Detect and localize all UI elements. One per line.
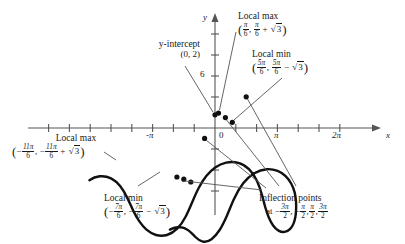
lnl-x-num: 7π <box>114 203 123 210</box>
lml-x-sign: − <box>16 146 21 156</box>
lml-y-num: 11π <box>45 143 58 150</box>
leader-local-min-right <box>234 78 282 120</box>
infl-3-den: 2 <box>318 211 327 219</box>
lnr-sign: − <box>284 62 289 72</box>
point-local-max-left <box>174 174 179 179</box>
infl-3-num: 3π <box>318 203 327 210</box>
lnl-x-den: 6 <box>114 211 123 219</box>
lnr-y-den: 6 <box>272 67 281 75</box>
point-local-min-right <box>230 120 235 125</box>
leader-inflection-c <box>227 120 280 186</box>
sqrt-icon: √3 <box>291 63 303 72</box>
graph-svg <box>0 0 405 244</box>
local-min-left-coords: (−7π6, −7π6 − √3) <box>104 204 170 220</box>
lmr-x-den: 6 <box>243 29 249 37</box>
infl-0-sign: − <box>275 206 280 216</box>
local-max-right-annotation: Local max (π6, π6 + √3) <box>238 12 287 38</box>
infl-2-num: π <box>309 203 315 210</box>
infl-1-num: π <box>300 203 306 210</box>
inflection-values: at −3π2, −π2,π2,3π2 <box>259 204 328 220</box>
lnl-y-sign-lead: − <box>128 206 133 216</box>
local-max-right-coords: (π6, π6 + √3) <box>238 22 287 38</box>
x-tick-label-pi: π <box>274 131 279 140</box>
y-intercept-point: (0, 2) <box>134 50 200 59</box>
lnl-x-sign: − <box>108 206 113 216</box>
lml-x-num: 11π <box>22 143 35 150</box>
sqrt-icon: √3 <box>68 147 80 156</box>
x-axis <box>28 124 381 132</box>
leader-inflection-a <box>185 181 263 190</box>
lnr-x-den: 6 <box>257 67 266 75</box>
inflection-annotation: Inflection points at −3π2, −π2,π2,3π2 <box>259 194 328 220</box>
y-intercept-annotation: y-intercept (0, 2) <box>134 40 200 59</box>
lml-x-den: 6 <box>22 151 35 159</box>
point-inflection-pi-2 <box>223 115 228 120</box>
infl-1-den: 2 <box>300 211 306 219</box>
sqrt-icon: √3 <box>153 207 165 216</box>
sqrt-icon: √3 <box>270 25 282 34</box>
lmr-x-num: π <box>243 21 249 28</box>
local-max-left-annotation: Local max (−11π6, −11π6 + √3) <box>12 134 140 160</box>
leader-y-intercept <box>185 66 213 112</box>
leader-local-min-left <box>138 172 160 186</box>
lml-y-sign-lead: − <box>39 146 44 156</box>
inflection-title: Inflection points <box>259 194 328 204</box>
local-min-left-annotation: Local min (−7π6, −7π6 − √3) <box>104 194 170 220</box>
lmr-y-num: π <box>254 21 260 28</box>
x-axis-label: x <box>386 131 390 140</box>
inflection-at-word: at <box>266 206 273 216</box>
y-tick-label-6: 6 <box>200 70 205 79</box>
infl-0-num: 3π <box>280 203 289 210</box>
lnl-y-num: 7π <box>134 203 143 210</box>
local-min-right-coords: (5π6, 5π6 − √3) <box>252 60 308 76</box>
lnl-sign: − <box>146 206 151 216</box>
infl-1-sign: − <box>295 206 300 216</box>
origin-tick-label: 0 <box>219 131 224 140</box>
point-local-max-right <box>216 111 221 116</box>
lmr-y-den: 6 <box>254 29 260 37</box>
infl-0-sep: , <box>290 206 292 216</box>
local-min-right-annotation: Local min (5π6, 5π6 − √3) <box>252 50 308 76</box>
y-axis-label: y <box>203 13 207 22</box>
lmr-sign: + <box>263 24 268 34</box>
point-inflection-3pi-2 <box>244 94 249 99</box>
leader-local-max-right <box>220 32 237 110</box>
lnr-x-num: 5π <box>257 59 266 66</box>
lnr-y-num: 5π <box>272 59 281 66</box>
lnl-y-den: 6 <box>134 211 143 219</box>
x-tick-label-neg-pi: -π <box>146 131 154 140</box>
lml-y-den: 6 <box>45 151 58 159</box>
local-max-left-coords: (−11π6, −11π6 + √3) <box>12 144 140 160</box>
infl-2-den: 2 <box>309 211 315 219</box>
x-tick-label-2pi: 2π <box>332 131 341 140</box>
calculus-graph-figure: y x 0 -π π 2π 6 y-intercept (0, 2) Local… <box>0 0 405 244</box>
lml-sign: + <box>60 146 65 156</box>
infl-0-den: 2 <box>280 211 289 219</box>
